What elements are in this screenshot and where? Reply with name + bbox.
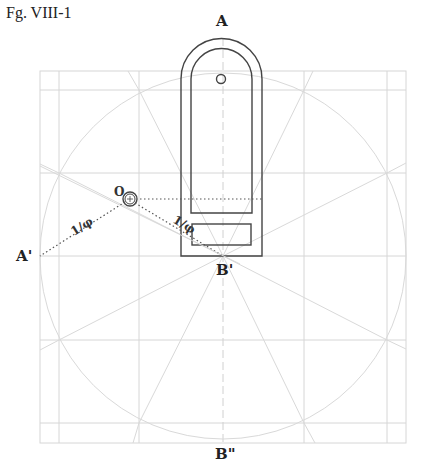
lower-rectangle — [192, 224, 251, 245]
label-o: O — [114, 185, 124, 199]
geometry-diagram: A A' B' B" O 1/φ 1/φ — [0, 0, 440, 474]
radial-extension — [40, 340, 59, 350]
radial-extension — [40, 164, 59, 173]
label-a: A — [215, 12, 228, 30]
radial-extension — [387, 163, 406, 173]
pivot-hole — [217, 75, 226, 84]
label-inv-phi-left: 1/φ — [68, 214, 96, 238]
radial-extension — [387, 340, 406, 349]
label-b-double-prime: B" — [215, 445, 236, 463]
radial-line — [223, 173, 387, 256]
diagonal-guide — [40, 166, 240, 264]
label-inv-phi-right: 1/φ — [170, 213, 198, 237]
label-a-prime: A' — [15, 247, 32, 265]
radial-extension — [304, 423, 315, 443]
radial-extension — [133, 423, 139, 443]
radial-line — [223, 256, 387, 340]
label-b-prime: B' — [216, 261, 233, 279]
radial-extension — [304, 71, 313, 90]
radial-line — [59, 256, 223, 340]
radial-extension — [128, 71, 139, 90]
